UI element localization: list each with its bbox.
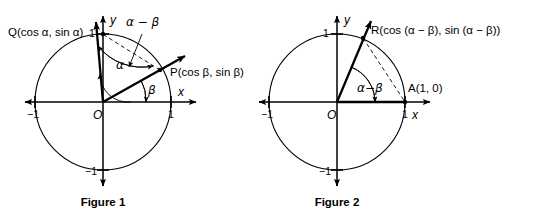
point-a-marker-figure-2 [403, 100, 407, 104]
figure-2-group: R(cos (α − β), sin (α − β)) A(1, 0) α−β … [259, 13, 501, 186]
point-r-label-figure-2: R(cos (α − β), sin (α − β)) [371, 24, 501, 36]
x-axis-label-figure-1: x [177, 85, 185, 99]
point-r-marker-figure-2 [361, 36, 365, 40]
trig-identity-diagram: Q(cos α, sin α) P(cos β, sin β) α β α − … [0, 0, 537, 216]
x-tick-label-neg1-figure-2: −1 [261, 108, 273, 120]
y-tick-label-pos1-figure-2: 1 [323, 27, 329, 39]
x-tick-label-pos1-figure-2: 1 [402, 108, 408, 120]
y-axis-label-figure-1: y [109, 13, 117, 27]
angle-alpha-label-figure-1: α [116, 58, 124, 72]
arc-alpha-minus-beta-reverse-figure-1 [98, 46, 153, 67]
caption-figure-1: Figure 1 [63, 196, 143, 208]
x-tick-label-pos1-figure-1: 1 [168, 108, 174, 120]
point-p-label-figure-1: P(cos β, sin β) [170, 66, 244, 78]
point-q-marker-figure-1 [101, 32, 105, 36]
origin-label-figure-1: O [93, 108, 102, 122]
leader-alpha-minus-beta-figure-1 [129, 34, 142, 67]
diagram-canvas: Q(cos α, sin α) P(cos β, sin β) α β α − … [0, 0, 537, 216]
angle-alpha-minus-beta-label-figure-2: α−β [357, 81, 383, 95]
arc-beta-arrowhead-figure-1 [141, 80, 146, 102]
y-axis-label-figure-2: y [343, 13, 351, 27]
origin-label-figure-2: O [327, 108, 336, 122]
angle-beta-label-figure-1: β [147, 83, 156, 97]
y-tick-label-pos1-figure-1: 1 [89, 27, 95, 39]
point-p-marker-figure-1 [158, 68, 162, 72]
y-tick-label-neg1-figure-1: −1 [85, 165, 97, 177]
point-q-label-figure-1: Q(cos α, sin α) [8, 26, 83, 38]
x-tick-label-neg1-figure-1: −1 [27, 108, 39, 120]
arc-alpha-minus-beta-figure-1 [98, 46, 153, 67]
caption-figure-2: Figure 2 [297, 196, 377, 208]
angle-alpha-minus-beta-label-figure-1: α − β [126, 15, 160, 29]
point-a-label-figure-2: A(1, 0) [408, 82, 443, 94]
x-axis-label-figure-2: x [411, 108, 419, 122]
y-tick-label-neg1-figure-2: −1 [319, 165, 331, 177]
figure-1-group: Q(cos α, sin α) P(cos β, sin β) α β α − … [8, 13, 244, 186]
